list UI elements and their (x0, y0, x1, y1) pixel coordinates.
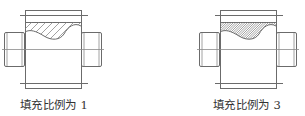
figure-hatch-scale-1: 填充比例为 1 (0, 0, 152, 116)
gear-section-drawing (153, 0, 305, 92)
caption: 填充比例为 3 (213, 96, 281, 112)
figure-hatch-scale-3: 填充比例为 3 (153, 0, 305, 116)
gear-section-drawing (0, 0, 152, 92)
break-curve (25, 25, 81, 40)
hatch-line (293, 22, 305, 42)
hatch-line (296, 22, 305, 42)
caption: 填充比例为 1 (20, 96, 88, 112)
